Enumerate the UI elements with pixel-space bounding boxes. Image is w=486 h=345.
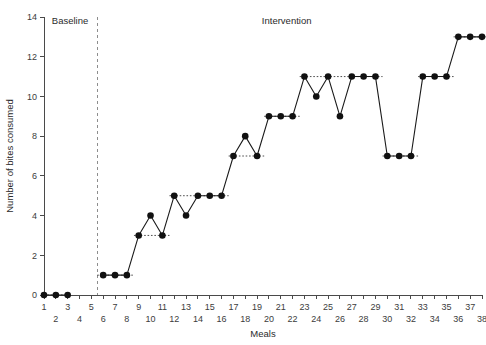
x-tick-label: 6 <box>101 314 106 324</box>
x-tick-label: 17 <box>228 302 238 312</box>
data-point <box>254 153 261 160</box>
x-tick-label: 18 <box>240 314 250 324</box>
data-point <box>195 192 202 199</box>
y-axis: 02468101214 <box>27 12 44 300</box>
y-tick-label: 8 <box>32 131 37 141</box>
x-tick-label: 14 <box>193 314 203 324</box>
data-point <box>384 153 391 160</box>
single-case-line-chart: 02468101214Number of bites consumed12345… <box>0 0 486 345</box>
x-tick-label: 11 <box>158 302 167 312</box>
data-point <box>408 153 415 160</box>
x-tick-label: 2 <box>53 314 58 324</box>
data-point <box>337 113 344 120</box>
x-tick-label: 22 <box>288 314 298 324</box>
data-point <box>348 73 355 80</box>
x-tick-label: 12 <box>169 314 179 324</box>
x-tick-label: 15 <box>205 302 215 312</box>
x-tick-label: 20 <box>264 314 274 324</box>
data-point <box>396 153 403 160</box>
chart-container: 02468101214Number of bites consumed12345… <box>0 0 486 345</box>
data-point <box>325 73 332 80</box>
x-tick-label: 29 <box>370 302 380 312</box>
x-tick-label: 21 <box>276 302 286 312</box>
x-tick-label: 31 <box>394 302 404 312</box>
data-point <box>277 113 284 120</box>
data-point <box>266 113 273 120</box>
data-point <box>218 192 225 199</box>
y-tick-label: 12 <box>27 52 37 62</box>
data-point <box>313 93 320 100</box>
data-point <box>41 292 48 299</box>
x-tick-label: 1 <box>41 302 46 312</box>
data-point <box>443 73 450 80</box>
x-tick-label: 36 <box>453 314 463 324</box>
data-point <box>124 272 131 279</box>
x-tick-label: 25 <box>323 302 333 312</box>
x-tick-label: 37 <box>465 302 475 312</box>
data-point <box>242 133 249 140</box>
data-point <box>479 34 486 41</box>
data-point <box>147 212 154 219</box>
y-tick-label: 2 <box>32 251 37 261</box>
x-tick-label: 30 <box>382 314 392 324</box>
data-point <box>301 73 308 80</box>
y-tick-label: 4 <box>32 211 37 221</box>
data-point <box>372 73 379 80</box>
x-tick-label: 27 <box>347 302 357 312</box>
x-tick-label: 4 <box>77 314 82 324</box>
x-tick-label: 23 <box>299 302 309 312</box>
data-point <box>171 192 178 199</box>
x-tick-label: 28 <box>359 314 369 324</box>
data-point <box>135 232 142 239</box>
data-point <box>455 34 462 41</box>
data-points <box>41 34 486 299</box>
y-tick-label: 6 <box>32 171 37 181</box>
x-tick-label: 33 <box>418 302 428 312</box>
x-tick-label: 3 <box>65 302 70 312</box>
y-axis-title: Number of bites consumed <box>4 99 15 213</box>
y-tick-label: 0 <box>32 290 37 300</box>
x-tick-label: 32 <box>406 314 416 324</box>
x-tick-label: 5 <box>89 302 94 312</box>
data-point <box>230 153 237 160</box>
x-axis: 1234567891011121314151617181920212223242… <box>41 295 486 324</box>
x-tick-label: 7 <box>113 302 118 312</box>
y-tick-label: 10 <box>27 92 37 102</box>
x-tick-label: 38 <box>477 314 486 324</box>
data-point <box>159 232 166 239</box>
y-tick-label: 14 <box>27 12 37 22</box>
data-series <box>44 37 482 295</box>
data-point <box>206 192 213 199</box>
x-tick-label: 34 <box>430 314 440 324</box>
data-point <box>431 73 438 80</box>
data-point <box>360 73 367 80</box>
x-tick-label: 13 <box>181 302 191 312</box>
x-tick-label: 10 <box>146 314 156 324</box>
data-point <box>64 292 71 299</box>
data-point <box>467 34 474 41</box>
x-tick-label: 24 <box>311 314 321 324</box>
data-point <box>100 272 107 279</box>
x-tick-label: 9 <box>136 302 141 312</box>
phase-label-intervention: Intervention <box>262 15 312 26</box>
x-tick-label: 8 <box>124 314 129 324</box>
x-tick-label: 19 <box>252 302 262 312</box>
data-point <box>183 212 190 219</box>
phase-label-baseline: Baseline <box>52 15 88 26</box>
x-tick-label: 35 <box>441 302 451 312</box>
x-tick-label: 26 <box>335 314 345 324</box>
data-point <box>112 272 119 279</box>
x-axis-title: Meals <box>250 328 276 339</box>
data-point <box>420 73 427 80</box>
x-tick-label: 16 <box>217 314 227 324</box>
data-point <box>289 113 296 120</box>
data-point <box>53 292 60 299</box>
series-line <box>44 37 482 295</box>
